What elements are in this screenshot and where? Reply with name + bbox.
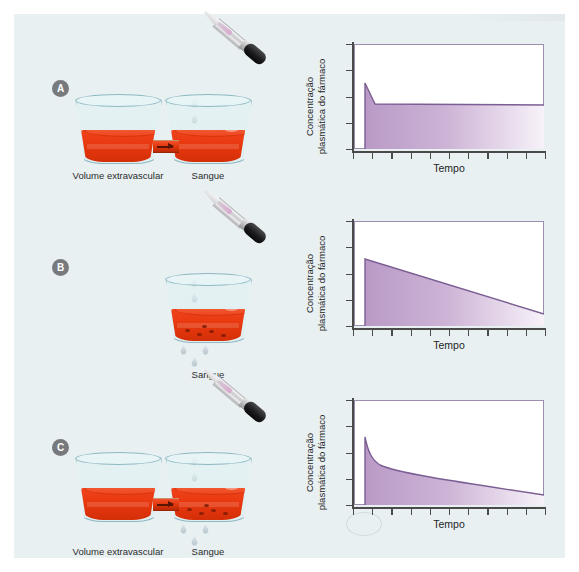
pipette-icon: [182, 382, 256, 456]
chart-c-xtick: [468, 509, 469, 515]
chart-c-xtick: [507, 509, 508, 515]
chart-b-xtick: [507, 330, 508, 336]
chart-b-xtick: [353, 330, 354, 336]
chart-a-xtick: [391, 153, 392, 159]
chart-a-xlabel: Tempo: [352, 162, 546, 174]
chart-c-xtick: [391, 509, 392, 515]
chart-a-ytick: [346, 123, 352, 124]
chart-c-ytick: [346, 400, 352, 401]
chart-b-ytick: [346, 247, 352, 248]
caption-blood: Sangue: [166, 170, 250, 182]
beaker-blood: [166, 457, 250, 521]
panel-c: C: [14, 376, 565, 557]
chart-c-ytick: [346, 479, 352, 480]
chart-b-ytick: [346, 300, 352, 301]
connector-tube: [153, 140, 179, 153]
elimination-drop: [191, 357, 198, 367]
panel-label-a: A: [52, 80, 69, 97]
chart-b-xtick: [372, 330, 373, 336]
chart-b-ytick: [346, 274, 352, 275]
chart-c-xtick: [430, 509, 431, 515]
chart-b-xtick: [526, 330, 527, 336]
chart-a-xtick: [411, 153, 412, 159]
beaker-extravascular: [76, 99, 160, 163]
chart-b-ytick: [346, 326, 352, 327]
chart-b: Concentração plasmática do fármaco Tempo: [302, 213, 552, 365]
chart-b-xtick: [391, 330, 392, 336]
pipette-icon: [182, 24, 256, 98]
chart-b-yaxis: [352, 219, 354, 328]
chart-c-xtick: [411, 509, 412, 515]
beaker-extravascular: [76, 457, 160, 521]
chart-b-xtick: [449, 330, 450, 336]
chart-c-xtick: [545, 509, 546, 515]
beaker-blood: [166, 278, 250, 342]
caption-extravascular: Volume extravascular: [66, 546, 170, 558]
chart-a-xtick: [468, 153, 469, 159]
chart-a-xtick: [545, 153, 546, 159]
elimination-drop: [191, 536, 198, 546]
elimination-drop: [202, 345, 209, 355]
panel-a: A: [14, 14, 565, 195]
caption-extravascular: Volume extravascular: [66, 170, 170, 182]
chart-c-xtick: [372, 509, 373, 515]
chart-b-ytick: [346, 221, 352, 222]
chart-b-xlabel: Tempo: [352, 339, 546, 351]
chart-c: Concentração plasmática do fármaco Tempo: [302, 392, 552, 544]
chart-b-curve: [354, 221, 544, 326]
chart-a-ylabel: Concentração plasmática do fármaco: [304, 54, 324, 159]
chart-a-xtick: [449, 153, 450, 159]
beaker-blood: [166, 99, 250, 163]
chart-a-xtick: [353, 153, 354, 159]
chart-a-ytick: [346, 44, 352, 45]
pencil-mark: [346, 512, 382, 536]
chart-a-xtick: [372, 153, 373, 159]
chart-a-xtick: [526, 153, 527, 159]
caption-blood: Sangue: [166, 546, 250, 558]
figure-canvas: A: [14, 14, 565, 558]
chart-a-xtick: [487, 153, 488, 159]
chart-a-curve: [354, 44, 544, 149]
chart-b-xtick: [411, 330, 412, 336]
connector-tube: [153, 498, 179, 511]
chart-c-xtick: [487, 509, 488, 515]
chart-b-xtick: [468, 330, 469, 336]
chart-c-ytick: [346, 505, 352, 506]
chart-c-ytick: [346, 426, 352, 427]
chart-a-xtick: [507, 153, 508, 159]
panel-label-c: C: [52, 439, 69, 456]
elimination-drop: [202, 524, 209, 534]
panel-b: B: [14, 195, 565, 376]
chart-c-ylabel: Concentração plasmática do fármaco: [304, 410, 324, 515]
chart-b-xtick: [545, 330, 546, 336]
chart-c-xtick: [449, 509, 450, 515]
chart-a-ytick: [346, 97, 352, 98]
elimination-drop: [180, 345, 187, 355]
chart-c-xtick: [526, 509, 527, 515]
chart-a: Concentração plasmática do fármaco Tempo: [302, 36, 552, 188]
chart-a-ytick: [346, 70, 352, 71]
pipette-icon: [182, 203, 256, 277]
chart-c-curve: [354, 400, 544, 505]
chart-c-ytick: [346, 453, 352, 454]
chart-a-yaxis: [352, 42, 354, 151]
chart-c-yaxis: [352, 398, 354, 507]
chart-a-xtick: [430, 153, 431, 159]
chart-a-ytick: [346, 149, 352, 150]
chart-b-ylabel: Concentração plasmática do fármaco: [304, 231, 324, 336]
chart-b-xtick: [430, 330, 431, 336]
elimination-drop: [180, 524, 187, 534]
chart-b-xtick: [487, 330, 488, 336]
chart-c-xtick: [353, 509, 354, 515]
panel-label-b: B: [52, 259, 69, 276]
